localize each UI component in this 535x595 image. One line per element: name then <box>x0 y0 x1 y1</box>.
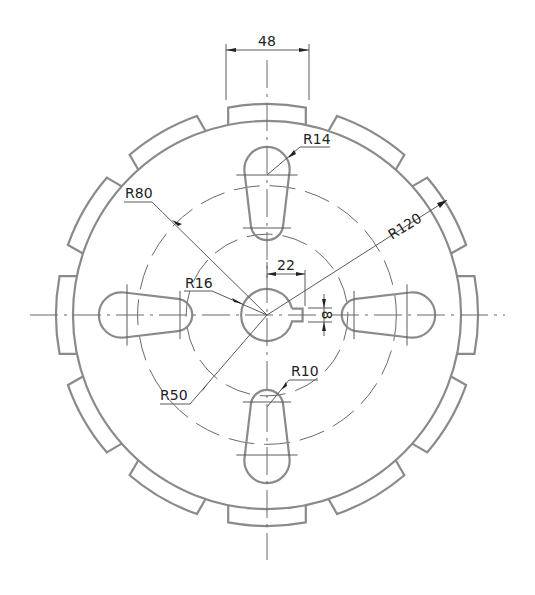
gear-tooth <box>412 178 466 254</box>
gear-tooth <box>68 376 122 452</box>
dim-r14-label: R14 <box>303 131 331 147</box>
dim-48-label: 48 <box>258 33 276 49</box>
dim-r16-label: R16 <box>185 275 213 291</box>
dimension-r50: R50 <box>160 315 267 404</box>
dim-r80-label: R80 <box>125 185 153 201</box>
dim-r120-label: R120 <box>385 210 424 243</box>
gear-tooth <box>68 178 122 254</box>
technical-drawing: 48 R14 R80 R16 R120 22 <box>0 0 535 595</box>
gear-tooth <box>328 460 404 514</box>
dimension-r16: R16 <box>184 275 267 315</box>
gear-tooth <box>328 116 404 170</box>
dimension-r10: R10 <box>267 363 319 407</box>
dim-8-label: 8 <box>319 311 335 320</box>
dim-22-label: 22 <box>277 257 295 273</box>
dim-r10-label: R10 <box>291 363 319 379</box>
gear-tooth <box>130 116 206 170</box>
gear-tooth <box>412 376 466 452</box>
dim-r50-label: R50 <box>160 387 188 403</box>
dimension-r14: R14 <box>267 131 331 175</box>
part-geometry <box>30 60 505 560</box>
gear-tooth <box>130 460 206 514</box>
